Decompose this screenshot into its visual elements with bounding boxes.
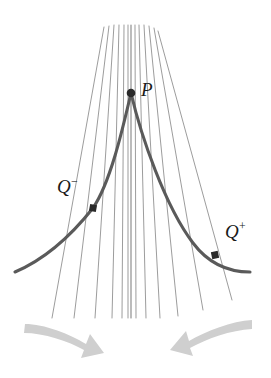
label-q-minus-sup: − — [71, 175, 78, 188]
label-p: P — [141, 80, 153, 99]
geometry-figure — [0, 0, 271, 378]
fan-line — [149, 26, 178, 316]
fan-line — [144, 25, 160, 318]
fan-line — [112, 25, 119, 318]
fan-line — [135, 25, 136, 318]
fan-line — [139, 25, 146, 318]
right-arrow-icon — [170, 320, 252, 356]
label-q-minus: Q− — [57, 177, 77, 196]
label-q-plus-base: Q — [225, 221, 239, 242]
point-q-minus — [89, 204, 97, 212]
fan-line — [122, 25, 124, 318]
label-q-minus-base: Q — [57, 176, 71, 197]
fan-line — [52, 27, 104, 318]
point-q-plus — [211, 251, 219, 259]
thick-curve — [15, 93, 250, 272]
fan-of-lines — [52, 25, 232, 318]
point-p — [127, 89, 136, 98]
figure-canvas: P Q− Q+ — [0, 0, 271, 378]
left-arrow-icon — [24, 324, 104, 358]
label-q-plus: Q+ — [225, 222, 245, 241]
motion-arrows — [24, 320, 252, 358]
fan-line — [74, 26, 109, 318]
label-q-plus-sup: + — [239, 220, 246, 233]
fan-line — [158, 31, 232, 300]
